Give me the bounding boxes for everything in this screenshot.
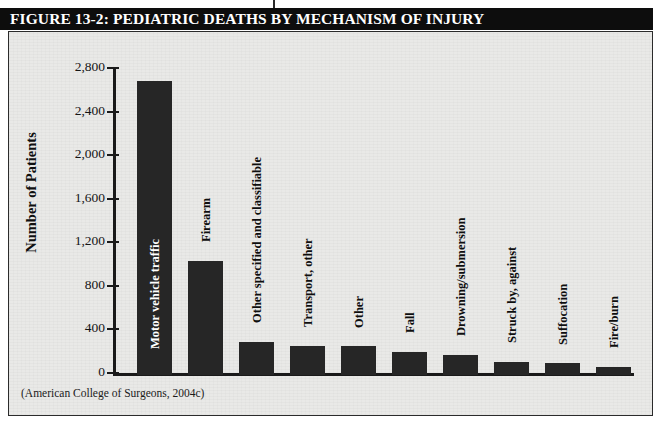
bar-item: Suffocation	[545, 363, 580, 375]
figure-title-bar: FIGURE 13-2: PEDIATRIC DEATHS BY MECHANI…	[0, 8, 653, 30]
page-title: FIGURE 13-2: PEDIATRIC DEATHS BY MECHANI…	[0, 10, 484, 28]
bar-category-label: Fall	[403, 312, 416, 333]
chart-plot-area: 04008001,2001,6002,0002,4002,800 Number …	[9, 32, 653, 416]
figure-frame: 04008001,2001,6002,0002,4002,800 Number …	[8, 31, 653, 416]
bar-category-label: Transport, other	[301, 238, 314, 327]
bar-item: Fall	[392, 352, 427, 375]
bar-category-label: Other	[352, 296, 365, 328]
bar-rect	[188, 261, 223, 375]
bar-rect	[494, 362, 529, 375]
bar-rect	[290, 346, 325, 375]
source-caption: (American College of Surgeons, 2004c)	[21, 387, 204, 399]
bar-item: Other specified and classifiable	[239, 342, 274, 375]
bar-category-label: Drowning/submersion	[454, 218, 467, 337]
bar-rect	[545, 363, 580, 375]
bar-category-label: Motor vehicle traffic	[148, 238, 161, 348]
bar-category-label: Suffocation	[556, 283, 569, 344]
bar-item: Drowning/submersion	[443, 355, 478, 375]
bar-item: Struck by, against	[494, 362, 529, 375]
figure-screenshot: FIGURE 13-2: PEDIATRIC DEATHS BY MECHANI…	[0, 0, 660, 424]
bar-category-label: Firearm	[199, 198, 212, 242]
bar-item: Fire/burn	[596, 367, 631, 375]
bar-item: Motor vehicle traffic	[137, 81, 172, 375]
bar-series: Motor vehicle trafficFirearmOther specif…	[9, 32, 653, 416]
bar-rect	[596, 367, 631, 375]
bar-category-label: Fire/burn	[607, 296, 620, 348]
bar-rect	[239, 342, 274, 375]
bar-category-label: Struck by, against	[505, 247, 518, 343]
bar-item: Firearm	[188, 261, 223, 375]
bar-category-label: Other specified and classifiable	[250, 157, 263, 323]
bar-item: Other	[341, 346, 376, 375]
bar-item: Transport, other	[290, 346, 325, 375]
bar-rect	[392, 352, 427, 375]
bar-rect	[341, 346, 376, 375]
bar-rect	[443, 355, 478, 375]
